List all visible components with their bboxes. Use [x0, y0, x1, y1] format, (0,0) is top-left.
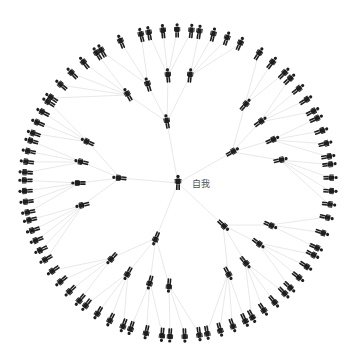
edge-line	[178, 183, 223, 225]
edge-line	[26, 180, 79, 183]
child-person-icon	[273, 155, 288, 164]
child-person-icon	[165, 278, 172, 293]
edge-line	[168, 31, 177, 76]
leaf-person-icon	[314, 227, 330, 238]
leaf-person-icon	[18, 188, 33, 195]
edge-line	[33, 205, 83, 230]
edge-line	[84, 63, 128, 95]
edge-line	[258, 243, 305, 266]
edge-line	[167, 122, 178, 183]
edge-line	[26, 183, 79, 191]
leaf-person-icon	[265, 55, 279, 70]
leaf-person-icon	[227, 318, 238, 334]
edge-line	[272, 131, 321, 140]
leaf-person-icon	[29, 235, 45, 246]
leaf-person-icon	[321, 152, 336, 161]
edge-line	[232, 152, 280, 160]
edge-line	[190, 35, 213, 76]
leaf-person-icon	[24, 136, 40, 146]
edge-line	[32, 141, 82, 162]
leaf-person-icon	[136, 27, 145, 42]
leaf-person-icon	[195, 24, 203, 39]
leaf-person-icon	[298, 260, 313, 273]
edge-line	[258, 243, 312, 254]
edge-line	[260, 100, 305, 122]
edge-line	[156, 238, 169, 285]
edge-line	[49, 102, 88, 142]
leaf-person-icon	[144, 26, 153, 41]
edge-line	[280, 160, 329, 204]
center-label: 自我	[192, 178, 210, 189]
edge-line	[220, 273, 228, 329]
edge-line	[270, 217, 326, 225]
edge-line	[260, 112, 312, 122]
leaf-person-icon	[298, 93, 313, 106]
leaf-person-icon	[222, 31, 232, 47]
edge-line	[121, 42, 148, 85]
edge-line	[190, 44, 240, 76]
edge-line	[245, 74, 284, 105]
child-person-icon	[105, 251, 119, 266]
leaf-person-icon	[91, 305, 104, 321]
edge-line	[27, 183, 79, 202]
leaf-person-icon	[26, 128, 42, 139]
edge-line	[169, 285, 199, 334]
leaf-person-icon	[104, 312, 116, 328]
leaf-person-icon	[322, 200, 337, 208]
leaf-person-icon	[21, 147, 36, 156]
edge-line	[156, 183, 178, 238]
leaf-person-icon	[38, 253, 54, 266]
edge-line	[272, 140, 328, 157]
ego-network-diagram: 自我	[0, 0, 356, 361]
leaf-person-icon	[257, 302, 270, 317]
hub-person-icon	[225, 145, 241, 158]
node-layer	[18, 23, 338, 343]
edge-line	[34, 134, 88, 142]
leaf-person-icon	[33, 244, 49, 256]
edge-line	[141, 36, 148, 85]
leaf-person-icon	[35, 106, 51, 118]
edge-line	[169, 285, 185, 335]
leaf-person-icon	[323, 174, 338, 181]
edge-line	[46, 205, 83, 259]
edge-line	[88, 142, 120, 178]
leaf-person-icon	[314, 125, 330, 136]
child-person-icon	[145, 275, 155, 291]
leaf-person-icon	[215, 322, 225, 338]
edge-line	[272, 140, 325, 144]
edge-line	[124, 273, 128, 325]
leaf-person-icon	[63, 284, 78, 299]
child-person-icon	[265, 134, 281, 146]
leaf-person-icon	[22, 215, 37, 224]
leaf-person-icon	[181, 328, 188, 343]
leaf-person-icon	[252, 46, 265, 61]
edge-line	[62, 85, 128, 95]
edge-line	[245, 54, 259, 105]
edge-line	[26, 162, 82, 172]
leaf-person-icon	[159, 24, 167, 39]
leaf-person-icon	[126, 320, 136, 336]
leaf-person-icon	[234, 36, 246, 52]
child-person-icon	[238, 97, 252, 112]
leaf-person-icon	[19, 198, 34, 206]
leaf-person-icon	[115, 34, 126, 50]
leaf-person-icon	[318, 139, 334, 149]
edge-line	[29, 151, 82, 162]
leaf-person-icon	[267, 294, 281, 309]
hub-person-icon	[150, 231, 161, 247]
edge-line	[41, 205, 83, 250]
leaf-person-icon	[54, 78, 69, 92]
edge-line	[149, 34, 168, 76]
edge-line	[258, 243, 289, 287]
edge-line	[228, 273, 232, 325]
leaf-person-icon	[322, 160, 337, 168]
edge-line	[128, 95, 167, 122]
edge-line	[102, 51, 148, 85]
leaf-person-icon	[174, 23, 180, 37]
edge-line	[120, 178, 178, 183]
edge-line	[31, 205, 83, 220]
leaf-person-icon	[319, 213, 334, 222]
edge-line	[29, 183, 79, 212]
leaf-person-icon	[65, 66, 79, 81]
leaf-person-icon	[118, 318, 129, 334]
